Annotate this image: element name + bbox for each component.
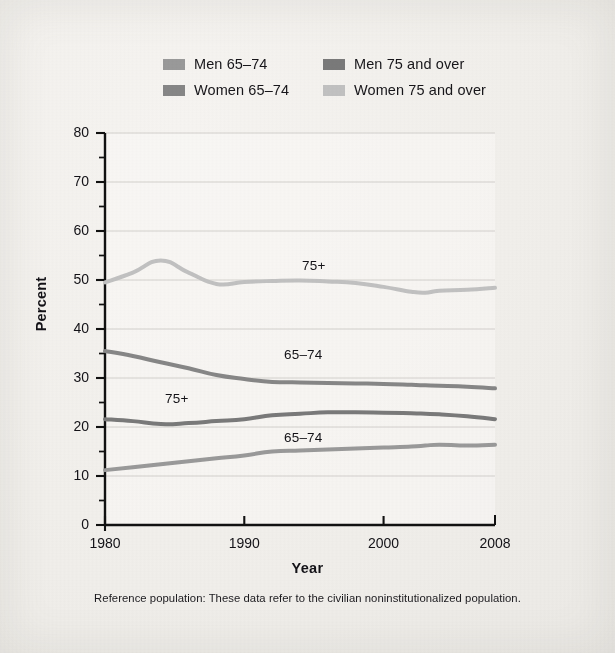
x-tick-label-2000: 2000 [354,535,414,551]
series-inline-label-men-65-74: 65–74 [284,430,323,445]
y-axis-ticks [96,133,105,525]
y-tick-label-30: 30 [55,369,89,385]
y-tick-label-0: 0 [55,516,89,532]
x-tick-label-1990: 1990 [214,535,274,551]
figure-page: Men 65–74 Men 75 and over Women 65–74 Wo… [0,0,615,653]
y-tick-label-60: 60 [55,222,89,238]
y-tick-label-10: 10 [55,467,89,483]
series-inline-label-women-65-74: 65–74 [284,347,323,362]
y-tick-label-40: 40 [55,320,89,336]
y-tick-label-80: 80 [55,124,89,140]
figure-footnote: Reference population: These data refer t… [0,592,615,604]
series-inline-label-men-75-over: 75+ [165,391,189,406]
x-axis-title: Year [0,560,615,576]
y-tick-label-70: 70 [55,173,89,189]
x-tick-label-2008: 2008 [465,535,525,551]
x-tick-label-1980: 1980 [75,535,135,551]
y-tick-label-50: 50 [55,271,89,287]
line-chart-svg [0,0,615,653]
series-inline-label-women-75-over: 75+ [302,258,326,273]
y-tick-label-20: 20 [55,418,89,434]
chart-plot-area: Percent 01020304050607080 19801990200020… [0,0,615,653]
